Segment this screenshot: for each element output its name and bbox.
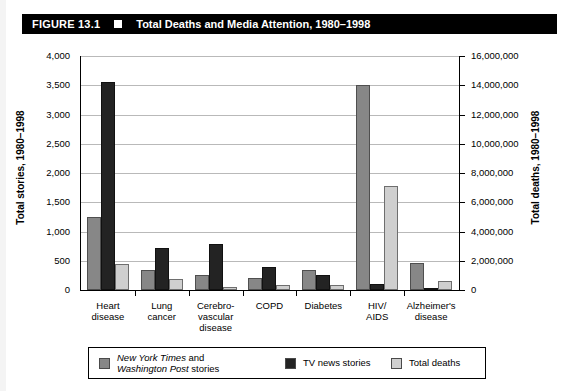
y-tick-label-right: 0	[471, 285, 476, 295]
legend-item-tv-news-stories[interactable]: TV news stories	[285, 348, 371, 378]
y-tick-label-right: 14,000,000	[471, 80, 519, 90]
y-tick-label-right: 10,000,000	[471, 139, 519, 149]
y-tick-label-left: 3,500	[46, 80, 70, 90]
legend-label-tv: TV news stories	[303, 357, 371, 369]
y-tick-label-right: 2,000,000	[471, 256, 513, 266]
legend-item-total-deaths[interactable]: Total deaths	[391, 348, 460, 378]
x-axis-label: COPD	[243, 300, 297, 311]
legend-label-newspaper-nyt: New York Times	[117, 352, 186, 363]
x-axis-label: Diabetes	[296, 300, 350, 311]
bar	[370, 284, 384, 290]
x-tick	[135, 291, 136, 296]
legend-label-newspaper-and: and	[186, 352, 205, 363]
y-tick-label-left: 0	[65, 285, 70, 295]
legend-label-deaths: Total deaths	[409, 357, 460, 369]
x-axis-label: HIV/ AIDS	[350, 300, 404, 322]
filled-square-icon	[114, 20, 122, 28]
y-tick-label-left: 3,000	[46, 110, 70, 120]
figure-number: FIGURE 13.1	[32, 18, 100, 30]
bar	[248, 278, 262, 290]
y-tick-label-left: 1,000	[46, 227, 70, 237]
x-axis-label: Alzheimer's disease	[404, 300, 458, 322]
chart: Total stories, 1980–1998 Total deaths, 1…	[0, 44, 574, 304]
legend-swatch-newspaper	[99, 358, 110, 369]
bar-group	[296, 56, 350, 290]
x-tick	[296, 291, 297, 296]
x-axis-label: Heart disease	[81, 300, 135, 322]
bar	[209, 244, 223, 290]
bar-group	[404, 56, 458, 290]
bar	[155, 248, 169, 290]
bar	[276, 285, 290, 290]
bar	[438, 281, 452, 290]
legend-item-newspaper-stories[interactable]: New York Times and Washington Post stori…	[99, 348, 219, 378]
x-tick	[243, 291, 244, 296]
bar	[316, 275, 330, 290]
bar-group	[189, 56, 243, 290]
y-tick-label-left: 500	[54, 256, 70, 266]
y-tick-label-left: 1,500	[46, 197, 70, 207]
y-tick-label-left: 2,000	[46, 168, 70, 178]
bar	[262, 267, 276, 290]
legend-swatch-deaths	[391, 358, 402, 369]
bar	[424, 288, 438, 290]
y-tick-label-left: 2,500	[46, 139, 70, 149]
y-tick-label-right: 12,000,000	[471, 110, 519, 120]
bar	[410, 263, 424, 290]
bar	[195, 275, 209, 290]
legend-label-newspaper-wp: Washington Post	[117, 363, 189, 374]
bar	[356, 85, 370, 290]
bar	[223, 287, 237, 290]
y-tick-label-right: 6,000,000	[471, 197, 513, 207]
bar	[169, 279, 183, 290]
bars-layer	[81, 56, 458, 290]
x-axis-label: Lung cancer	[135, 300, 189, 322]
y-axis-left: 05001,0001,5002,0002,5003,0003,5004,000	[0, 56, 80, 290]
x-axis-labels: Heart diseaseLung cancerCerebro- vascula…	[81, 300, 458, 348]
figure-title: Total Deaths and Media Attention, 1980–1…	[136, 18, 370, 30]
bar	[115, 264, 129, 290]
bar	[87, 217, 101, 290]
x-tick	[350, 291, 351, 296]
figure-title-bar: FIGURE 13.1 Total Deaths and Media Atten…	[22, 14, 557, 34]
y-tick-label-right: 4,000,000	[471, 227, 513, 237]
y-tick-label-left: 4,000	[46, 51, 70, 61]
legend-label-newspaper-stories: stories	[189, 363, 220, 374]
x-tick	[189, 291, 190, 296]
bar-group	[135, 56, 189, 290]
y-tick-label-right: 16,000,000	[471, 51, 519, 61]
legend: New York Times and Washington Post stori…	[88, 347, 486, 379]
bar-group	[243, 56, 297, 290]
legend-swatch-tv	[285, 358, 296, 369]
bar-group	[350, 56, 404, 290]
x-tick	[404, 291, 405, 296]
bar-group	[81, 56, 135, 290]
legend-label-newspaper: New York Times and Washington Post stori…	[117, 352, 219, 375]
bar	[141, 270, 155, 290]
bar	[101, 82, 115, 290]
bar	[330, 285, 344, 290]
y-axis-right: 02,000,0004,000,0006,000,0008,000,00010,…	[459, 56, 574, 290]
bar	[302, 270, 316, 290]
y-tick-label-right: 8,000,000	[471, 168, 513, 178]
x-axis-label: Cerebro- vascular disease	[189, 300, 243, 333]
bar	[384, 186, 398, 290]
